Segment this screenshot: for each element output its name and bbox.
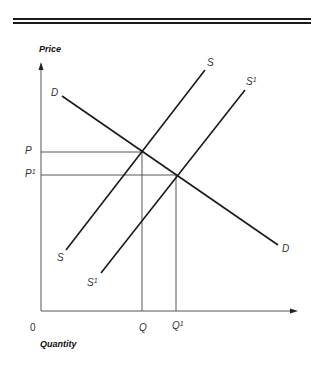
y-axis-title: Price (39, 45, 61, 54)
price-label-p1-sup: 1 (32, 168, 36, 175)
x-axis-title: Quantity (40, 340, 77, 349)
supply-shifted-label-text: S (87, 277, 94, 288)
price-label-p1: P1 (25, 169, 36, 179)
quantity-label-q1: Q1 (172, 321, 184, 331)
price-label-p1-text: P (25, 168, 32, 179)
supply-shifted-label-top: S1 (246, 77, 257, 87)
supply-curve-s1 (101, 90, 245, 273)
quantity-label-q1-text: Q (172, 320, 180, 331)
supply-curve-s (66, 70, 205, 250)
demand-curve-d (62, 96, 278, 245)
supply-shifted-label-text: S (246, 76, 253, 87)
supply-shifted-label-bottom: S1 (87, 278, 98, 288)
price-label-p: P (25, 146, 32, 156)
x-axis-arrow-icon (290, 309, 298, 314)
y-axis-arrow-icon (39, 62, 44, 70)
demand-label-top: D (51, 88, 58, 98)
demand-label-bottom: D (282, 244, 289, 254)
supply-demand-chart (0, 0, 319, 368)
quantity-label-q1-sup: 1 (180, 320, 184, 327)
supply-label-top: S (207, 58, 214, 68)
quantity-label-q: Q (139, 323, 147, 333)
supply-label-bottom: S (57, 253, 64, 263)
supply-shifted-label-sup: 1 (94, 277, 98, 284)
supply-shifted-label-sup: 1 (253, 76, 257, 83)
origin-label: 0 (30, 323, 36, 333)
